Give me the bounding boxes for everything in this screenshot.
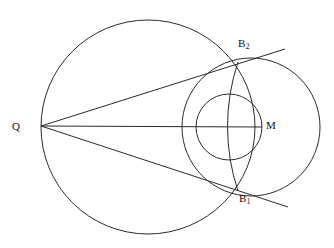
point-label-b1-subscript: 1 (247, 197, 251, 206)
point-label-q: Q (12, 121, 20, 132)
point-label-b2: B2 (238, 38, 249, 49)
point-label-b2-base: B (238, 37, 245, 49)
point-label-b1-base: B (239, 192, 246, 204)
point-label-m-base: M (266, 119, 276, 131)
point-label-m: M (266, 120, 276, 131)
line-q-to-m (41, 126, 262, 127)
point-label-q-base: Q (12, 120, 20, 132)
geometry-figure: Q M B2 B1 (0, 0, 334, 248)
point-label-b2-subscript: 2 (246, 42, 250, 51)
diagram-canvas (0, 0, 334, 248)
point-label-b1: B1 (239, 193, 250, 204)
line-q-to-b2-tangent (41, 49, 285, 126)
line-q-to-b1-tangent (41, 126, 288, 207)
